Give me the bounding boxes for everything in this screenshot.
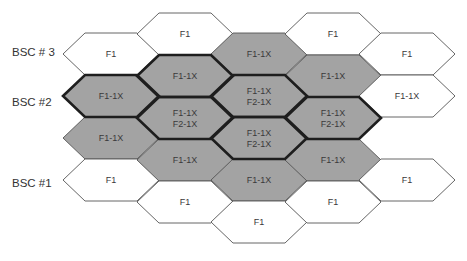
cell-carrier-label: F2-1X — [173, 119, 198, 129]
hex-cell-diagram: F1F1-1XF1-1XF1F1F1-1XF1-1XF2-1XF1-1XF1F1… — [0, 0, 467, 261]
cell-carrier-label: F1-1X — [321, 155, 346, 165]
cell-carrier-label: F1 — [106, 175, 117, 185]
bsc-label: BSC #2 — [12, 96, 52, 108]
cell-carrier-label: F1-1X — [321, 71, 346, 81]
cell-carrier-label: F1 — [254, 217, 265, 227]
cell-carrier-label: F1-1X — [321, 108, 346, 118]
cell-carrier-label: F1-1X — [247, 49, 272, 59]
cell-carrier-label: F1 — [402, 49, 413, 59]
cell-carrier-label: F1 — [180, 29, 191, 39]
bsc-label: BSC #1 — [12, 177, 52, 189]
bsc-labels-layer: BSC # 3BSC #2BSC #1 — [12, 46, 55, 189]
cell-carrier-label: F1 — [402, 175, 413, 185]
cell-carrier-label: F1 — [328, 29, 339, 39]
cell-carrier-label: F1-1X — [173, 155, 198, 165]
cell-carrier-label: F1-1X — [247, 86, 272, 96]
cell-carrier-label: F1-1X — [395, 91, 420, 101]
bsc-label: BSC # 3 — [12, 46, 55, 58]
cell-carrier-label: F2-1X — [247, 97, 272, 107]
cell-carrier-label: F2-1X — [247, 139, 272, 149]
cell-carrier-label: F1-1X — [173, 71, 198, 81]
cell-carrier-label: F1-1X — [99, 133, 124, 143]
cell-carrier-label: F1 — [106, 49, 117, 59]
cell-carrier-label: F1-1X — [99, 91, 124, 101]
cell-carrier-label: F1-1X — [247, 175, 272, 185]
cell-carrier-label: F2-1X — [321, 119, 346, 129]
cell-carrier-label: F1-1X — [173, 108, 198, 118]
cell-carrier-label: F1 — [180, 197, 191, 207]
cell-carrier-label: F1-1X — [247, 128, 272, 138]
cell-carrier-label: F1 — [328, 197, 339, 207]
